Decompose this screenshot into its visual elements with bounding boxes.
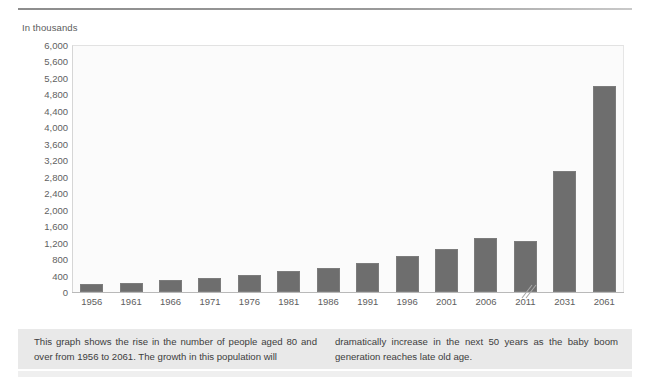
x-axis-tick-label: 2011 [515,296,535,307]
x-axis-tick-label: 1996 [397,296,418,307]
x-axis-tick-label: 2061 [594,296,615,307]
y-axis-tick-label: 4,400 [2,105,68,116]
y-axis-tick-label: 6,000 [2,40,68,51]
bar-slot [348,45,387,292]
bar [514,241,537,292]
bar [435,249,458,292]
x-axis-tick-label: 2006 [475,296,496,307]
bar [159,280,182,292]
y-axis-tick-label: 4,000 [2,122,68,133]
y-axis-tick-label: 0 [2,287,68,298]
caption-column-left: This graph shows the rise in the number … [34,335,317,365]
y-axis-tick-label: 2,000 [2,204,68,215]
y-axis-tick-label: 3,600 [2,138,68,149]
bar [593,86,616,292]
bar [396,256,419,292]
bar-slot [309,45,348,292]
x-axis-tick-label: 1966 [160,296,181,307]
bars-layer [72,45,624,292]
x-axis-tick-label: 1981 [278,296,299,307]
bar [317,268,340,292]
bar-chart-figure: In thousands 6,0005,6005,2004,8004,4004,… [0,0,649,320]
x-axis-tick-label: 1961 [121,296,142,307]
y-axis-tick-label: 3,200 [2,155,68,166]
bar-slot [427,45,466,292]
bar-slot [387,45,426,292]
bar-slot [111,45,150,292]
x-axis-tick-labels: 1956196119661971197619811986199119962001… [72,296,624,316]
x-axis-tick-label: 2031 [554,296,575,307]
bar [356,263,379,292]
bar [198,278,221,292]
y-axis-tick-label: 5,600 [2,56,68,67]
bar [277,271,300,292]
bar [474,238,497,292]
y-axis-tick-label: 4,800 [2,89,68,100]
bar-slot [190,45,229,292]
y-axis-tick-label: 400 [2,270,68,281]
bar-slot [230,45,269,292]
y-axis-tick-label: 2,800 [2,171,68,182]
bar-slot [72,45,111,292]
y-axis-tick-label: 1,600 [2,221,68,232]
bar [238,275,261,292]
bar-slot [269,45,308,292]
y-axis-tick-label: 800 [2,254,68,265]
bar-slot [466,45,505,292]
bar-slot [545,45,584,292]
bar [80,284,103,292]
y-axis-tick-label: 5,200 [2,72,68,83]
x-axis-baseline [72,292,624,293]
bar-slot [151,45,190,292]
caption-column-right: dramatically increase in the next 50 yea… [335,335,618,365]
bar-slot [585,45,624,292]
caption-band: This graph shows the rise in the number … [18,329,632,369]
x-axis-tick-label: 1971 [199,296,220,307]
bottom-strip [18,371,632,377]
x-axis-tick-label: 1986 [318,296,339,307]
bar [120,283,143,292]
bar [553,171,576,292]
y-axis-tick-label: 1,200 [2,237,68,248]
bar-slot [506,45,545,292]
x-axis-tick-label: 1991 [357,296,378,307]
y-axis-tick-labels: 6,0005,6005,2004,8004,4004,0003,6003,200… [0,0,68,320]
x-axis-tick-label: 2001 [436,296,457,307]
x-axis-tick-label: 1976 [239,296,260,307]
x-axis-tick-label: 1956 [81,296,102,307]
y-axis-tick-label: 2,400 [2,188,68,199]
